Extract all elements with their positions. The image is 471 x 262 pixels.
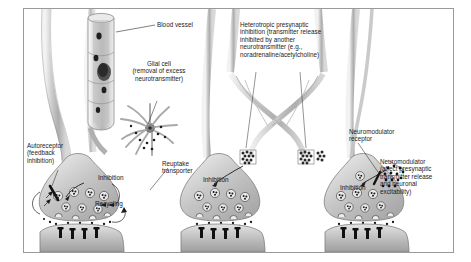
diagram-figure: Blood vessel Glial cell (removal of exce… [0, 0, 471, 262]
label-heterotropic-inhibition: Heterotropic presynaptic inhibition (tra… [240, 21, 352, 58]
terminal-left [33, 154, 128, 228]
label-inhibition-left: Inhibition [98, 174, 124, 181]
label-glial-cell: Glial cell (removal of excess neurotrans… [113, 60, 205, 82]
glial-cell [121, 104, 177, 155]
label-recycling: Recycling [95, 200, 123, 207]
bouton-cluster-right [298, 150, 314, 164]
postsynaptic-middle [181, 224, 265, 252]
label-neuromodulator-receptor: Neuromodulator receptor [349, 128, 419, 143]
axon-center-left [230, 9, 236, 72]
axon-left [46, 9, 67, 160]
axon-middle [205, 9, 212, 158]
postsynaptic-right [325, 224, 409, 252]
label-neuromodulator: Neuromodulator (affect presynaptic trans… [380, 158, 464, 195]
label-autoreceptor: Autoreceptor (feedback inhibition) [27, 142, 87, 164]
label-inhibition-middle: Inhibition [203, 176, 229, 183]
label-inhibition-right: Inhibition [340, 184, 366, 191]
label-blood-vessel: Blood vessel [157, 21, 193, 28]
leader-heterotropic-right [300, 72, 306, 148]
label-reuptake-transporter: Reuptake transporter [162, 160, 220, 175]
blood-vessel [88, 13, 114, 153]
leader-blood-vessel [116, 25, 155, 32]
postsynaptic-left [40, 224, 124, 252]
leader-heterotropic-left [246, 72, 256, 148]
